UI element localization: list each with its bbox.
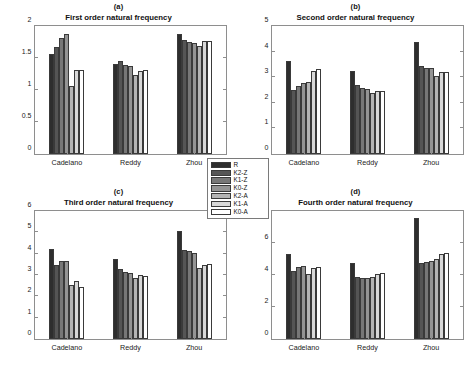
x-axis-tick-mark <box>431 336 432 339</box>
bar-group <box>177 26 212 154</box>
legend-label: K1-A <box>234 201 248 207</box>
y-axis-tick-label: 2 <box>28 16 35 23</box>
x-axis-tick-mark <box>194 151 195 154</box>
y-axis-tick-label: 2 <box>265 92 272 99</box>
bar-group <box>49 26 84 154</box>
bar-group <box>350 26 385 154</box>
bar <box>316 267 321 339</box>
panel-letter-c: (c) <box>0 187 237 196</box>
legend-item: R <box>211 161 265 168</box>
y-axis-tick-mark <box>35 274 38 275</box>
panel-title-a: First order natural frequency <box>0 13 237 22</box>
y-axis-tick-label: 1.5 <box>22 48 35 55</box>
bar-group <box>414 26 449 154</box>
bar <box>143 276 148 339</box>
y-axis-tick-mark <box>460 242 463 243</box>
x-axis-tick-label: Reddy <box>120 343 141 352</box>
y-axis-tick-label: 4 <box>265 265 272 272</box>
bar <box>79 70 84 154</box>
y-axis-tick-mark <box>460 306 463 307</box>
legend-swatch <box>211 177 231 183</box>
bar-group <box>177 211 212 339</box>
y-axis-tick-mark <box>35 231 38 232</box>
y-axis-tick-mark <box>272 127 275 128</box>
y-axis-tick-label: 5 <box>265 16 272 23</box>
legend-swatch <box>211 209 231 215</box>
y-axis-tick-mark <box>460 127 463 128</box>
y-axis-tick-label: 3 <box>28 265 35 272</box>
y-axis-tick-label: 1 <box>265 118 272 125</box>
x-axis-tick-label: Zhou <box>186 158 202 167</box>
y-axis-tick-label: 6 <box>265 233 272 240</box>
y-axis-tick-mark <box>223 274 226 275</box>
x-axis-tick-mark <box>67 336 68 339</box>
subplot-c: (c) Third order natural frequency 012345… <box>0 187 237 370</box>
x-axis-tick-mark <box>368 336 369 339</box>
legend-swatch <box>211 193 231 199</box>
x-axis-tick-mark <box>431 151 432 154</box>
y-axis-tick-mark <box>223 57 226 58</box>
y-axis-tick-label: 3 <box>265 67 272 74</box>
bar-group <box>286 26 321 154</box>
x-axis-tick-mark <box>368 151 369 154</box>
y-axis-tick-mark <box>272 51 275 52</box>
y-axis-tick-label: 2 <box>265 297 272 304</box>
x-axis-tick-mark <box>194 336 195 339</box>
y-axis-tick-mark <box>223 231 226 232</box>
x-axis-tick-label: Reddy <box>357 343 378 352</box>
panel-title-b: Second order natural frequency <box>237 13 474 22</box>
panel-letter-d: (d) <box>237 187 474 196</box>
x-axis-tick-mark <box>131 336 132 339</box>
legend-swatch <box>211 201 231 207</box>
y-axis-tick-mark <box>272 306 275 307</box>
y-axis-tick-mark <box>35 57 38 58</box>
legend-label: K2-Z <box>234 170 248 176</box>
legend-label: K2-A <box>234 193 248 199</box>
y-axis-tick-label: 0 <box>265 329 272 336</box>
x-axis-tick-label: Reddy <box>357 158 378 167</box>
panel-title-c: Third order natural frequency <box>0 198 237 207</box>
panel-letter-a: (a) <box>0 2 237 11</box>
y-axis-tick-label: 4 <box>265 41 272 48</box>
y-axis-tick-label: 6 <box>28 201 35 208</box>
x-axis-tick-label: Cadelano <box>288 343 319 352</box>
plot-area-a <box>35 26 226 154</box>
y-axis-tick-mark <box>223 317 226 318</box>
y-axis-tick-mark <box>272 102 275 103</box>
x-axis-tick-label: Cadelano <box>288 158 319 167</box>
x-axis-tick-label: Zhou <box>186 343 202 352</box>
subplot-b: (b) Second order natural frequency 01234… <box>237 2 474 185</box>
legend-label: K1-Z <box>234 177 248 183</box>
x-axis-tick-mark <box>67 151 68 154</box>
y-axis-tick-label: 1 <box>28 80 35 87</box>
y-axis-tick-label: 0 <box>265 144 272 151</box>
bar-group <box>414 211 449 339</box>
axes-c: 0123456CadelanoReddyZhou <box>34 210 227 340</box>
y-axis-tick-mark <box>35 89 38 90</box>
x-axis-tick-mark <box>304 151 305 154</box>
subplot-d: (d) Fourth order natural frequency 02468… <box>237 187 474 370</box>
legend-label: R <box>234 162 239 168</box>
y-axis-tick-label: 5 <box>28 222 35 229</box>
y-axis-tick-label: 0 <box>28 144 35 151</box>
bar-group <box>113 26 148 154</box>
y-axis-tick-mark <box>223 253 226 254</box>
bar <box>380 91 385 154</box>
subplot-a: (a) First order natural frequency 00.511… <box>0 2 237 185</box>
axes-b: 012345CadelanoReddyZhou <box>271 25 464 155</box>
x-axis-tick-mark <box>131 151 132 154</box>
x-axis-tick-label: Reddy <box>120 158 141 167</box>
y-axis-tick-mark <box>272 274 275 275</box>
legend-label: K0-A <box>234 209 248 215</box>
y-axis-tick-mark <box>35 317 38 318</box>
y-axis-tick-mark <box>460 51 463 52</box>
panel-letter-b: (b) <box>237 2 474 11</box>
bar <box>207 41 212 154</box>
x-axis-tick-label: Cadelano <box>51 158 82 167</box>
y-axis-tick-mark <box>35 121 38 122</box>
x-axis-tick-label: Zhou <box>423 343 439 352</box>
axes-a: 00.511.52CadelanoReddyZhou <box>34 25 227 155</box>
bar-group <box>49 211 84 339</box>
bar <box>444 72 449 154</box>
y-axis-tick-mark <box>223 295 226 296</box>
